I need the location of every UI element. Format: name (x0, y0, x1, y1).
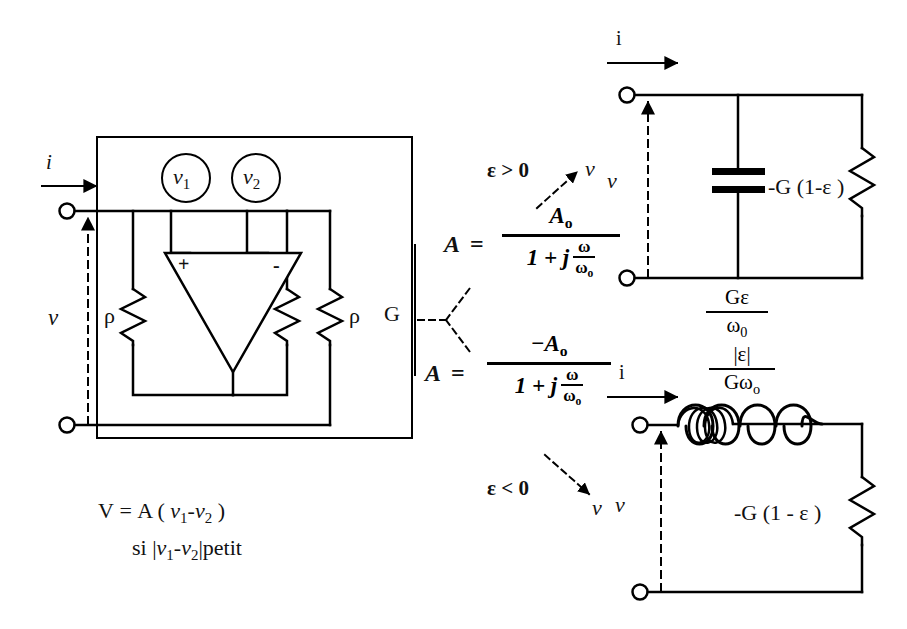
opamp-minus-label: - (273, 255, 280, 275)
inductive-voltage-label: v (615, 494, 625, 516)
opamp-plus-label: + (178, 254, 189, 274)
capacitive-current-label: i (616, 28, 622, 48)
formula-bottom-numerator: −Ao (487, 332, 611, 360)
resistor-rho-left (121, 289, 145, 345)
formula-top-fraction-bar (502, 234, 620, 237)
left-voltage-label: v (48, 306, 58, 329)
capacitor-plates (712, 168, 765, 193)
resistor-rho-left-label: ρ (104, 305, 115, 327)
formula-top-lhs: A (444, 232, 460, 256)
branch-fork (418, 288, 470, 352)
formula-bottom-fraction-bar (487, 362, 611, 365)
epsilon-positive-label: ε > 0 (487, 160, 529, 181)
formula-top-equals: = (470, 232, 484, 256)
inductive-resistor-label: -G (1 - ε ) (734, 502, 821, 524)
epsilon-negative-arrow (545, 455, 589, 494)
formula-top-fraction: Ao 1 + j ω ωo (502, 204, 620, 279)
capacitive-resistor-label: -G (1-ε ) (768, 176, 844, 198)
resistor-rho-right-label: ρ (349, 305, 360, 327)
resistor-g-label: G (384, 303, 400, 325)
epsilon-positive-target-label: v (585, 158, 595, 180)
formula-top-numerator: Ao (502, 204, 620, 232)
caption-line-1: V = A ( v1-v2 ) (98, 500, 225, 526)
resistor-g (318, 289, 342, 345)
source-1-label: v1 (173, 166, 190, 192)
inductive-current-label: i (619, 362, 625, 382)
left-current-label: i (46, 152, 52, 173)
inductive-circuit (608, 397, 874, 600)
resistor-rho-right (275, 289, 299, 345)
source-2-label: v2 (243, 166, 260, 192)
capacitive-capacitor-value: Gε ω0 (706, 286, 768, 340)
left-port-terminals (60, 204, 331, 433)
inductive-inductor-value: |ε| Gωo (709, 343, 775, 397)
diagram-canvas: i v v1 v2 + - ρ ρ G V = A ( v1-v2 ) si |… (0, 0, 907, 629)
formula-top-denominator: 1 + j ω ωo (502, 238, 620, 279)
epsilon-negative-target-label: v (592, 497, 602, 519)
epsilon-negative-label: ε < 0 (487, 478, 529, 499)
formula-bottom-lhs: A (425, 361, 441, 385)
caption-line-2: si |v1-v2|petit (132, 537, 242, 563)
formula-bottom-denominator: 1 + j ω ωo (487, 366, 611, 407)
formula-bottom-equals: = (451, 361, 465, 385)
capacitive-voltage-label: v (607, 170, 617, 192)
formula-bottom-fraction: −Ao 1 + j ω ωo (487, 332, 611, 407)
